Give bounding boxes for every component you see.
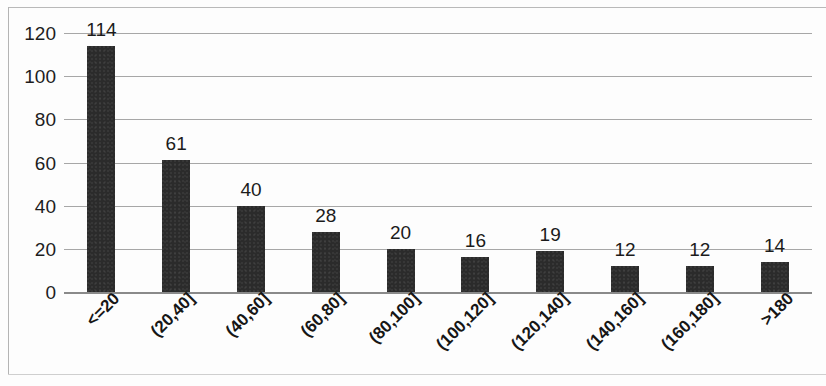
bar-value-label: 40 <box>240 180 261 199</box>
bar-value-label: 16 <box>465 231 486 250</box>
x-axis-tick-label-text: <=20 <box>83 289 125 331</box>
x-axis-tick-label-text: (140,160] <box>582 289 648 355</box>
bar-slot: 28 <box>288 33 363 292</box>
x-axis-tick-label: (40,60] <box>222 289 274 341</box>
bar <box>761 262 789 292</box>
bar-slot: 19 <box>513 33 588 292</box>
x-axis-tick-label: (80,100] <box>365 289 424 348</box>
x-axis-tick-label-text: (160,180] <box>657 289 723 355</box>
y-axis-tick-label: 40 <box>0 196 56 215</box>
bar-value-label: 12 <box>614 240 635 259</box>
plot-area: 114614028201619121214 <box>64 33 812 292</box>
bar-value-label: 114 <box>86 20 116 39</box>
x-axis-tick-label: (100,120] <box>433 289 499 355</box>
bar-slot: 12 <box>662 33 737 292</box>
bar-slot: 40 <box>214 33 289 292</box>
bar <box>387 249 415 292</box>
x-axis-tick-label: (160,180] <box>657 289 723 355</box>
bar-slot: 14 <box>737 33 812 292</box>
bar-value-label: 12 <box>689 240 710 259</box>
bar-slot: 61 <box>139 33 214 292</box>
bar <box>686 266 714 292</box>
x-axis-tick-label-text: (80,100] <box>365 289 424 348</box>
x-axis-tick-label: (20,40] <box>147 289 199 341</box>
x-axis-tick-label-text: (20,40] <box>147 289 199 341</box>
bar-chart-figure: 020406080100120 114614028201619121214 <=… <box>0 0 826 386</box>
x-axis-tick-label: <=20 <box>83 289 125 331</box>
bar <box>237 206 265 292</box>
x-axis-tick-label-text: (100,120] <box>433 289 499 355</box>
y-axis-tick-label: 120 <box>0 24 56 43</box>
x-axis-tick-label: (140,160] <box>582 289 648 355</box>
bar <box>162 160 190 292</box>
bar-value-label: 19 <box>540 225 561 244</box>
y-axis-tick-label: 80 <box>0 110 56 129</box>
bar <box>461 257 489 292</box>
x-axis-tick-label-text: (60,80] <box>297 289 349 341</box>
page-border-top <box>8 7 826 8</box>
bar-slot: 114 <box>64 33 139 292</box>
bar <box>611 266 639 292</box>
bar <box>536 251 564 292</box>
x-axis-tick-label-text: (120,140] <box>508 289 574 355</box>
bar-value-label: 20 <box>390 223 411 242</box>
y-axis-tick-label: 60 <box>0 153 56 172</box>
bar-value-label: 61 <box>166 134 187 153</box>
bar <box>312 232 340 292</box>
bar-value-label: 14 <box>764 236 785 255</box>
bar-value-label: 28 <box>315 206 336 225</box>
bar <box>87 46 115 292</box>
y-axis-tick-label: 0 <box>0 283 56 302</box>
y-axis-tick-labels: 020406080100120 <box>0 0 56 386</box>
x-axis-line <box>64 292 812 294</box>
x-axis-tick-label-text: >180 <box>756 289 797 330</box>
x-axis-tick-label: (60,80] <box>297 289 349 341</box>
bar-slot: 20 <box>363 33 438 292</box>
x-axis-tick-label-text: (40,60] <box>222 289 274 341</box>
x-axis-tick-labels: <=20(20,40](40,60](60,80](80,100](100,12… <box>64 296 812 376</box>
x-axis-tick-label: (120,140] <box>508 289 574 355</box>
bar-slot: 16 <box>438 33 513 292</box>
y-axis-tick-label: 100 <box>0 67 56 86</box>
x-axis-tick-label: >180 <box>756 289 797 330</box>
y-axis-tick-label: 20 <box>0 239 56 258</box>
bar-slot: 12 <box>588 33 663 292</box>
